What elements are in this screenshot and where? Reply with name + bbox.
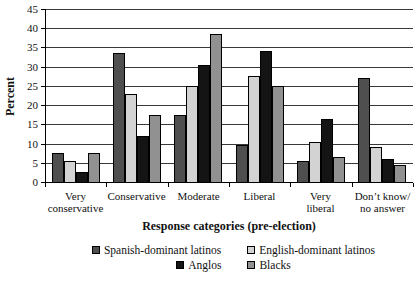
y-axis-title: Percent — [3, 47, 18, 147]
x-category-label: Don’t know/ no answer — [344, 190, 417, 214]
bar-english-dominant-latinos — [186, 86, 198, 182]
legend-swatch-english-dominant-latinos — [247, 246, 255, 254]
bar-group-very-liberal — [290, 9, 351, 182]
y-tick-label: 5 — [14, 158, 38, 169]
y-tick-label: 0 — [14, 177, 38, 188]
bar-group-conservative — [106, 9, 167, 182]
legend-label: Blacks — [259, 259, 290, 271]
x-tick — [106, 183, 107, 187]
bar-anglos — [76, 172, 88, 182]
x-tick — [168, 183, 169, 187]
x-tick — [352, 183, 353, 187]
x-axis-title: Response categories (pre-election) — [45, 219, 413, 234]
bar-anglos — [198, 65, 210, 182]
bar-spanish-dominant-latinos — [52, 153, 64, 182]
bar-blacks — [88, 153, 100, 182]
bar-blacks — [272, 86, 284, 182]
bar-spanish-dominant-latinos — [297, 161, 309, 182]
bar-group-very-conservative — [45, 9, 106, 182]
x-tick — [290, 183, 291, 187]
bar-english-dominant-latinos — [64, 161, 76, 182]
bar-group-don-t-know-no-answer — [352, 9, 413, 182]
y-tick-label: 35 — [14, 42, 38, 53]
y-tick-label: 20 — [14, 100, 38, 111]
y-tick-label: 25 — [14, 81, 38, 92]
bar-spanish-dominant-latinos — [236, 145, 248, 182]
bar-english-dominant-latinos — [248, 76, 260, 182]
bar-english-dominant-latinos — [125, 94, 137, 182]
bar-spanish-dominant-latinos — [113, 53, 125, 182]
bar-group-liberal — [229, 9, 290, 182]
y-tick-label: 40 — [14, 23, 38, 34]
bar-spanish-dominant-latinos — [358, 78, 370, 182]
bar-spanish-dominant-latinos — [174, 115, 186, 182]
y-tick-label: 30 — [14, 62, 38, 73]
x-tick — [413, 183, 414, 187]
bar-anglos — [137, 136, 149, 182]
bar-blacks — [333, 157, 345, 182]
legend-item-anglos: Anglos — [176, 259, 221, 271]
x-tick — [45, 183, 46, 187]
bar-anglos — [321, 119, 333, 182]
bar-blacks — [394, 165, 406, 182]
legend-swatch-anglos — [176, 261, 184, 269]
bar-english-dominant-latinos — [309, 142, 321, 182]
legend-swatch-blacks — [247, 261, 255, 269]
legend-item-blacks: Blacks — [247, 259, 290, 271]
y-tick-label: 10 — [14, 139, 38, 150]
legend: Spanish-dominant latinosEnglish-dominant… — [50, 244, 417, 271]
legend-swatch-spanish-dominant-latinos — [92, 246, 100, 254]
legend-label: Spanish-dominant latinos — [104, 244, 221, 256]
bar-blacks — [149, 115, 161, 182]
bar-group-moderate — [168, 9, 229, 182]
bar-anglos — [260, 51, 272, 182]
x-tick — [229, 183, 230, 187]
legend-item-spanish-dominant-latinos: Spanish-dominant latinos — [92, 244, 221, 256]
y-tick-label: 15 — [14, 119, 38, 130]
bar-chart: 051015202530354045Very conservativeConse… — [0, 0, 417, 287]
legend-label: Anglos — [188, 259, 221, 271]
legend-row: AnglosBlacks — [50, 259, 417, 271]
legend-item-english-dominant-latinos: English-dominant latinos — [247, 244, 375, 256]
bar-english-dominant-latinos — [370, 147, 382, 182]
y-tick-label: 45 — [14, 4, 38, 15]
legend-label: English-dominant latinos — [259, 244, 375, 256]
bar-anglos — [382, 159, 394, 182]
y-axis-line — [45, 9, 46, 186]
bar-blacks — [210, 34, 222, 182]
legend-row: Spanish-dominant latinosEnglish-dominant… — [50, 244, 417, 256]
